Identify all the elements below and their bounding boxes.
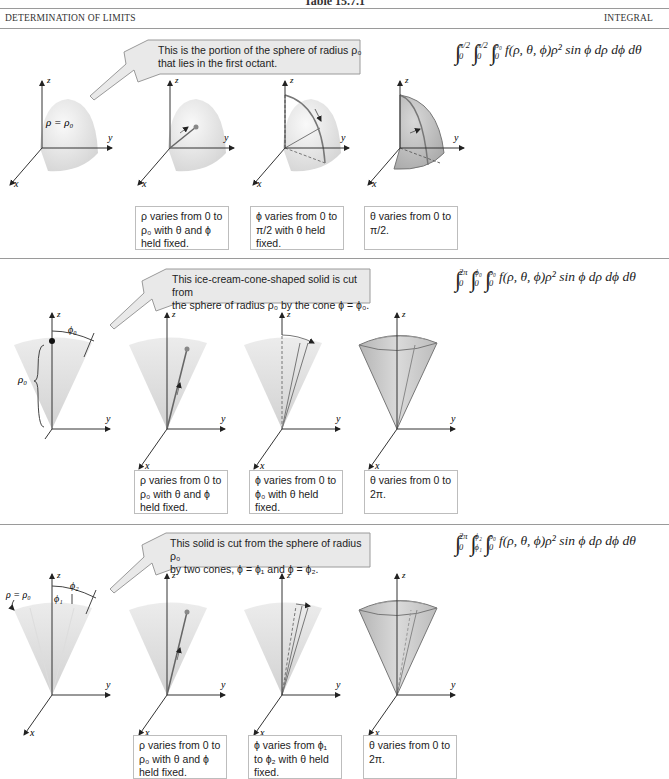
- step-text-line: ρ₀ with θ and ϕ: [139, 753, 221, 767]
- callout-line1: This ice-cream-cone-shaped solid is cut …: [172, 273, 372, 299]
- step-box-rho: ρ varies from 0 to ρ₀ with θ and ϕ held …: [134, 470, 228, 514]
- header-integral: INTEGRAL: [604, 13, 653, 23]
- svg-text:y: y: [220, 413, 226, 424]
- step-text-line: ρ varies from 0 to: [141, 210, 223, 224]
- cone-solid-figure: z ϕ₀ ρ₀ y x: [0, 309, 125, 439]
- two-cones-phi-varies-figure: z y x: [230, 570, 355, 745]
- step-text-line: ρ₀ with θ and ϕ: [141, 224, 223, 238]
- step-text-line: 2π.: [370, 488, 452, 502]
- callout-line2: that lies in the first octant.: [158, 57, 368, 70]
- step-box-theta: θ varies from 0 to π/2.: [364, 206, 458, 250]
- svg-text:ρ₀: ρ₀: [17, 373, 27, 385]
- octant-sphere-figure: z y x ρ = ρ₀: [0, 73, 125, 203]
- cone-rho-varies-figure: z y x: [115, 309, 240, 479]
- integrand: f(ρ, θ, ϕ)ρ² sin ϕ dρ dϕ dθ: [499, 269, 636, 284]
- step-text-line: ϕ varies from 0 to: [255, 474, 337, 488]
- integrand: f(ρ, θ, ϕ)ρ² sin ϕ dρ dϕ dθ: [499, 533, 636, 548]
- integral-row3: ∫2π0∫ϕ₂ϕ₁∫ρ₀0f(ρ, θ, ϕ)ρ² sin ϕ dρ dϕ dθ: [455, 531, 636, 557]
- step-box-phi: ϕ varies from 0 to π/2 with θ held fixed…: [250, 206, 344, 250]
- step-box-theta: θ varies from 0 to 2π.: [364, 470, 458, 514]
- step-text-line: π/2.: [370, 224, 452, 238]
- step-box-phi: ϕ varies from 0 to ϕ₀ with θ held fixed.: [249, 470, 343, 514]
- svg-text:x: x: [371, 178, 377, 189]
- svg-text:x: x: [141, 178, 147, 189]
- row-ice-cream-cone: This ice-cream-cone-shaped solid is cut …: [0, 259, 669, 514]
- two-cones-rho-varies-figure: z y x: [115, 570, 240, 745]
- step-text-line: ϕ₀ with θ held: [255, 488, 337, 502]
- step-text-line: fixed.: [254, 766, 336, 779]
- callout-line1: This solid is cut from the sphere of rad…: [170, 537, 370, 563]
- svg-text:x: x: [256, 178, 262, 189]
- svg-text:y: y: [220, 679, 226, 690]
- step-text-line: ρ varies from 0 to: [139, 739, 221, 753]
- step-text-line: ρ₀ with θ and ϕ: [140, 488, 222, 502]
- step-text-line: held fixed.: [139, 766, 221, 779]
- step-text-line: ρ varies from 0 to: [140, 474, 222, 488]
- step-text-line: π/2 with θ held: [256, 224, 338, 238]
- step-box-rho: ρ varies from 0 to ρ₀ with θ and ϕ held …: [135, 206, 229, 250]
- svg-text:z: z: [171, 309, 176, 319]
- svg-text:y: y: [450, 413, 456, 424]
- svg-text:y: y: [453, 132, 459, 143]
- integral-row1: ∫π/20∫π/20∫ρ₀0f(ρ, θ, ϕ)ρ² sin ϕ dρ dϕ d…: [455, 40, 642, 66]
- two-cones-theta-varies-figure: z y x: [345, 570, 470, 745]
- step-text-line: θ varies from 0 to: [370, 210, 452, 224]
- step-text-line: θ varies from 0 to: [369, 739, 451, 753]
- svg-text:z: z: [286, 309, 291, 319]
- svg-text:ϕ₀: ϕ₀: [68, 324, 77, 335]
- svg-text:ρ = ρ₀: ρ = ρ₀: [45, 116, 73, 128]
- phi-varies-figure: z y x: [225, 73, 350, 203]
- header-determination-of-limits: DETERMINATION OF LIMITS: [5, 13, 136, 23]
- step-box-rho: ρ varies from 0 to ρ₀ with θ and ϕ held …: [133, 735, 227, 779]
- svg-text:z: z: [404, 75, 409, 85]
- svg-text:x: x: [29, 727, 35, 738]
- top-rule: [0, 8, 669, 9]
- step-text-line: 2π.: [369, 753, 451, 767]
- step-text-line: fixed.: [255, 501, 337, 515]
- step-text-line: held fixed.: [140, 501, 222, 515]
- step-text-line: fixed.: [256, 237, 338, 251]
- svg-text:z: z: [171, 570, 176, 580]
- rho-varies-figure: z y x: [110, 73, 235, 203]
- row-two-cones: This solid is cut from the sphere of rad…: [0, 525, 669, 779]
- svg-text:y: y: [335, 679, 341, 690]
- svg-text:ρ = ρ₀: ρ = ρ₀: [5, 589, 31, 600]
- svg-text:z: z: [401, 309, 406, 319]
- step-text-line: θ varies from 0 to: [370, 474, 452, 488]
- svg-text:x: x: [13, 178, 19, 189]
- step-text-line: to ϕ₂ with θ held: [254, 753, 336, 767]
- svg-text:ϕ₁: ϕ₁: [54, 593, 63, 604]
- step-text-line: held fixed.: [141, 237, 223, 251]
- cone-theta-varies-figure: z y x: [345, 309, 470, 479]
- integral-row2: ∫2π0∫ϕ₀0∫ρ₀0f(ρ, θ, ϕ)ρ² sin ϕ dρ dϕ dθ: [455, 267, 636, 293]
- step-text-line: ϕ varies from ϕ₁: [254, 739, 336, 753]
- svg-text:y: y: [335, 413, 341, 424]
- callout-line1: This is the portion of the sphere of rad…: [158, 44, 368, 57]
- cone-phi-varies-figure: z y x: [230, 309, 355, 479]
- svg-text:z: z: [401, 570, 406, 580]
- step-box-theta: θ varies from 0 to 2π.: [363, 735, 457, 779]
- integrand: f(ρ, θ, ϕ)ρ² sin ϕ dρ dϕ dθ: [505, 42, 642, 57]
- row-first-octant: This is the portion of the sphere of rad…: [0, 28, 669, 253]
- theta-varies-figure: z y x: [340, 73, 465, 203]
- step-text-line: ϕ varies from 0 to: [256, 210, 338, 224]
- two-cones-solid-figure: z ρ = ρ₀ ϕ₂ ϕ₁ y x: [0, 570, 125, 745]
- svg-text:ϕ₂: ϕ₂: [70, 580, 79, 591]
- svg-text:y: y: [105, 413, 111, 424]
- svg-text:z: z: [286, 570, 291, 580]
- svg-text:z: z: [174, 75, 179, 85]
- svg-text:y: y: [105, 679, 111, 690]
- svg-text:z: z: [56, 309, 61, 319]
- svg-text:z: z: [46, 75, 51, 85]
- step-box-phi: ϕ varies from ϕ₁ to ϕ₂ with θ held fixed…: [248, 735, 342, 779]
- svg-text:z: z: [56, 570, 61, 580]
- svg-text:z: z: [289, 75, 294, 85]
- svg-text:y: y: [450, 679, 456, 690]
